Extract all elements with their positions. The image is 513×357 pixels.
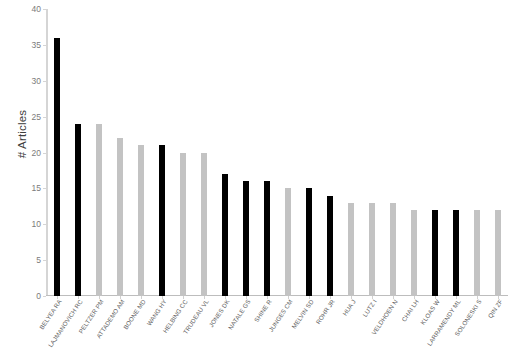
bar[interactable] (453, 210, 459, 296)
bar[interactable] (411, 210, 417, 296)
bar[interactable] (159, 145, 165, 296)
bar-slot (466, 9, 487, 296)
x-label-slot: HUA J (340, 297, 361, 357)
y-axis-tick-label: 15 (15, 183, 41, 193)
bar-slot (403, 9, 424, 296)
bar[interactable] (75, 124, 81, 296)
x-label-slot: SOLONESKI S (466, 297, 487, 357)
bar-slot (277, 9, 298, 296)
bar[interactable] (201, 153, 207, 297)
y-axis-tick-label: 10 (15, 219, 41, 229)
y-axis-tick-label: 5 (15, 255, 41, 265)
x-axis-label: QIN ZF (486, 298, 503, 319)
bar-chart: # Articles 0510152025303540 BELYEA RALAJ… (0, 0, 513, 357)
bar-slot (130, 9, 151, 296)
x-axis-label: LUTZ I (361, 298, 378, 318)
bar-slot (109, 9, 130, 296)
y-axis-title: # Articles (16, 74, 28, 194)
bar[interactable] (138, 145, 144, 296)
bar-slot (67, 9, 88, 296)
y-axis-tick-label: 30 (15, 76, 41, 86)
bar-slot (235, 9, 256, 296)
bar-slot (172, 9, 193, 296)
y-axis-tick-label: 35 (15, 40, 41, 50)
bar[interactable] (495, 210, 501, 296)
x-label-slot: QIN ZF (487, 297, 508, 357)
x-axis-label: SHINE R (252, 298, 272, 323)
x-label-slot: MELVIN SD (298, 297, 319, 357)
bar[interactable] (222, 174, 228, 296)
x-label-slot: NATALE GS (235, 297, 256, 357)
bar[interactable] (54, 38, 60, 296)
bar[interactable] (369, 203, 375, 296)
bar[interactable] (243, 181, 249, 296)
x-axis-label: HUA J (340, 298, 356, 317)
bar-slot (424, 9, 445, 296)
bar[interactable] (348, 203, 354, 296)
bar-slot (256, 9, 277, 296)
bar-slot (193, 9, 214, 296)
bar-slot (487, 9, 508, 296)
bar-series (46, 9, 508, 296)
y-axis-tick-label: 0 (15, 291, 41, 301)
bar-slot (382, 9, 403, 296)
bar[interactable] (432, 210, 438, 296)
bar-slot (298, 9, 319, 296)
bar-slot (88, 9, 109, 296)
bar[interactable] (264, 181, 270, 296)
bar[interactable] (474, 210, 480, 296)
x-axis-labels: BELYEA RALAJMANOVICH RCPELTZER PMATTADEM… (46, 297, 508, 357)
bar[interactable] (96, 124, 102, 296)
bar-slot (340, 9, 361, 296)
x-axis-label: CHAI LH (399, 298, 419, 323)
bar-slot (361, 9, 382, 296)
bar-slot (445, 9, 466, 296)
bar-slot (319, 9, 340, 296)
bar[interactable] (390, 203, 396, 296)
y-axis-tick-label: 25 (15, 112, 41, 122)
bar-slot (151, 9, 172, 296)
bar[interactable] (180, 153, 186, 297)
bar-slot (46, 9, 67, 296)
y-axis-tick-label: 40 (15, 4, 41, 14)
x-label-slot: BOONE MD (130, 297, 151, 357)
bar[interactable] (327, 196, 333, 296)
plot-area: 0510152025303540 (46, 9, 508, 296)
y-axis-tick-label: 20 (15, 148, 41, 158)
bar-slot (214, 9, 235, 296)
x-label-slot: CHAI LH (403, 297, 424, 357)
bar[interactable] (117, 138, 123, 296)
bar[interactable] (306, 188, 312, 296)
x-label-slot: ROHR JR (319, 297, 340, 357)
x-label-slot: VELDHOEN N (382, 297, 403, 357)
bar[interactable] (285, 188, 291, 296)
